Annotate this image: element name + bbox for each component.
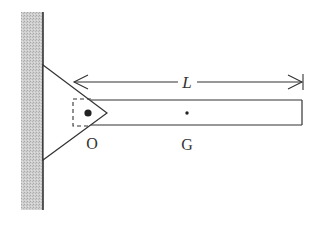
pivot-point (84, 109, 91, 116)
wall (21, 12, 43, 210)
rod (91, 100, 302, 125)
center-of-mass-label: G (181, 136, 193, 153)
rod-pivot-diagram: L O G (0, 0, 323, 233)
pivot-label: O (86, 135, 98, 152)
center-of-mass-point (185, 111, 188, 114)
length-label: L (181, 73, 191, 92)
